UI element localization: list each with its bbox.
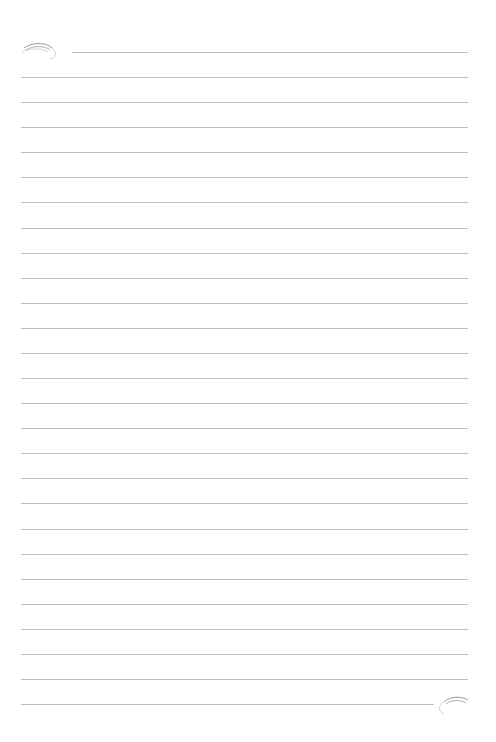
ruled-line <box>21 202 468 203</box>
ruled-line <box>21 353 468 354</box>
ruled-line <box>21 529 468 530</box>
ruled-line <box>72 52 468 53</box>
ruled-line <box>21 403 468 404</box>
ruled-line <box>21 102 468 103</box>
ruled-line <box>21 679 468 680</box>
ruled-line <box>21 278 468 279</box>
ruled-line <box>21 478 468 479</box>
top-left-flourish-icon <box>20 40 60 62</box>
ruled-line <box>21 152 468 153</box>
ruled-line <box>21 253 468 254</box>
ruled-line <box>21 228 468 229</box>
ruled-line <box>21 127 468 128</box>
ruled-line <box>21 654 468 655</box>
ruled-line <box>21 303 468 304</box>
bottom-right-flourish-icon <box>434 692 470 716</box>
ruled-line <box>21 453 468 454</box>
ruled-line <box>21 328 468 329</box>
ruled-line <box>21 629 468 630</box>
ruled-line <box>21 378 468 379</box>
ruled-line <box>21 177 468 178</box>
ruled-line <box>21 604 468 605</box>
ruled-line <box>21 77 468 78</box>
ruled-line <box>21 579 468 580</box>
ruled-line <box>21 503 468 504</box>
ruled-line <box>21 704 434 705</box>
ruled-line <box>21 428 468 429</box>
ruled-line <box>21 554 468 555</box>
